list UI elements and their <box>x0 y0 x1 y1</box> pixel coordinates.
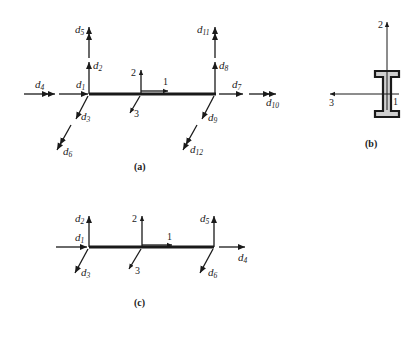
label-d10: d10 <box>266 96 279 110</box>
label-d1: d1 <box>76 78 85 92</box>
label-d3: d3 <box>81 110 91 124</box>
label-d2: d2 <box>93 59 103 73</box>
label-c-d3: d3 <box>81 266 91 280</box>
label-d4: d4 <box>35 78 45 92</box>
label-d8: d8 <box>219 59 229 73</box>
diagram-canvas: d4 d1 d2 d5 d3 d6 2 1 3 d11 d8 d7 d10 d9… <box>0 0 419 340</box>
label-axis-1-b: 1 <box>393 96 398 107</box>
label-axis-1-c: 1 <box>167 231 172 242</box>
label-d7: d7 <box>232 78 242 92</box>
label-axis-2-b: 2 <box>378 19 383 30</box>
label-axis-2-c: 2 <box>132 213 137 224</box>
label-c-d2: d2 <box>75 212 85 226</box>
label-axis-3-a: 3 <box>134 108 139 119</box>
label-axis-3-c: 3 <box>135 265 140 276</box>
caption-b: (b) <box>365 138 377 150</box>
label-c-d1: d1 <box>75 231 84 245</box>
caption-c: (c) <box>134 297 145 309</box>
label-c-d5: d5 <box>200 212 210 226</box>
panel-b: 2 3 1 (b) <box>329 19 399 150</box>
label-c-d6: d6 <box>208 266 218 280</box>
panel-c: d1 d2 d3 2 1 3 d5 d4 d6 (c) <box>56 212 248 309</box>
label-c-d4: d4 <box>238 251 248 265</box>
label-axis-3-b: 3 <box>329 97 334 108</box>
label-axis-2-a: 2 <box>131 67 136 78</box>
label-axis-1-a: 1 <box>163 76 168 87</box>
label-d5: d5 <box>75 23 85 37</box>
caption-a: (a) <box>134 161 146 173</box>
label-d11: d11 <box>197 23 209 37</box>
panel-a: d4 d1 d2 d5 d3 d6 2 1 3 d11 d8 d7 d10 d9… <box>24 23 279 173</box>
label-d9: d9 <box>208 111 218 125</box>
label-d12: d12 <box>190 143 203 157</box>
label-d6: d6 <box>63 145 73 159</box>
